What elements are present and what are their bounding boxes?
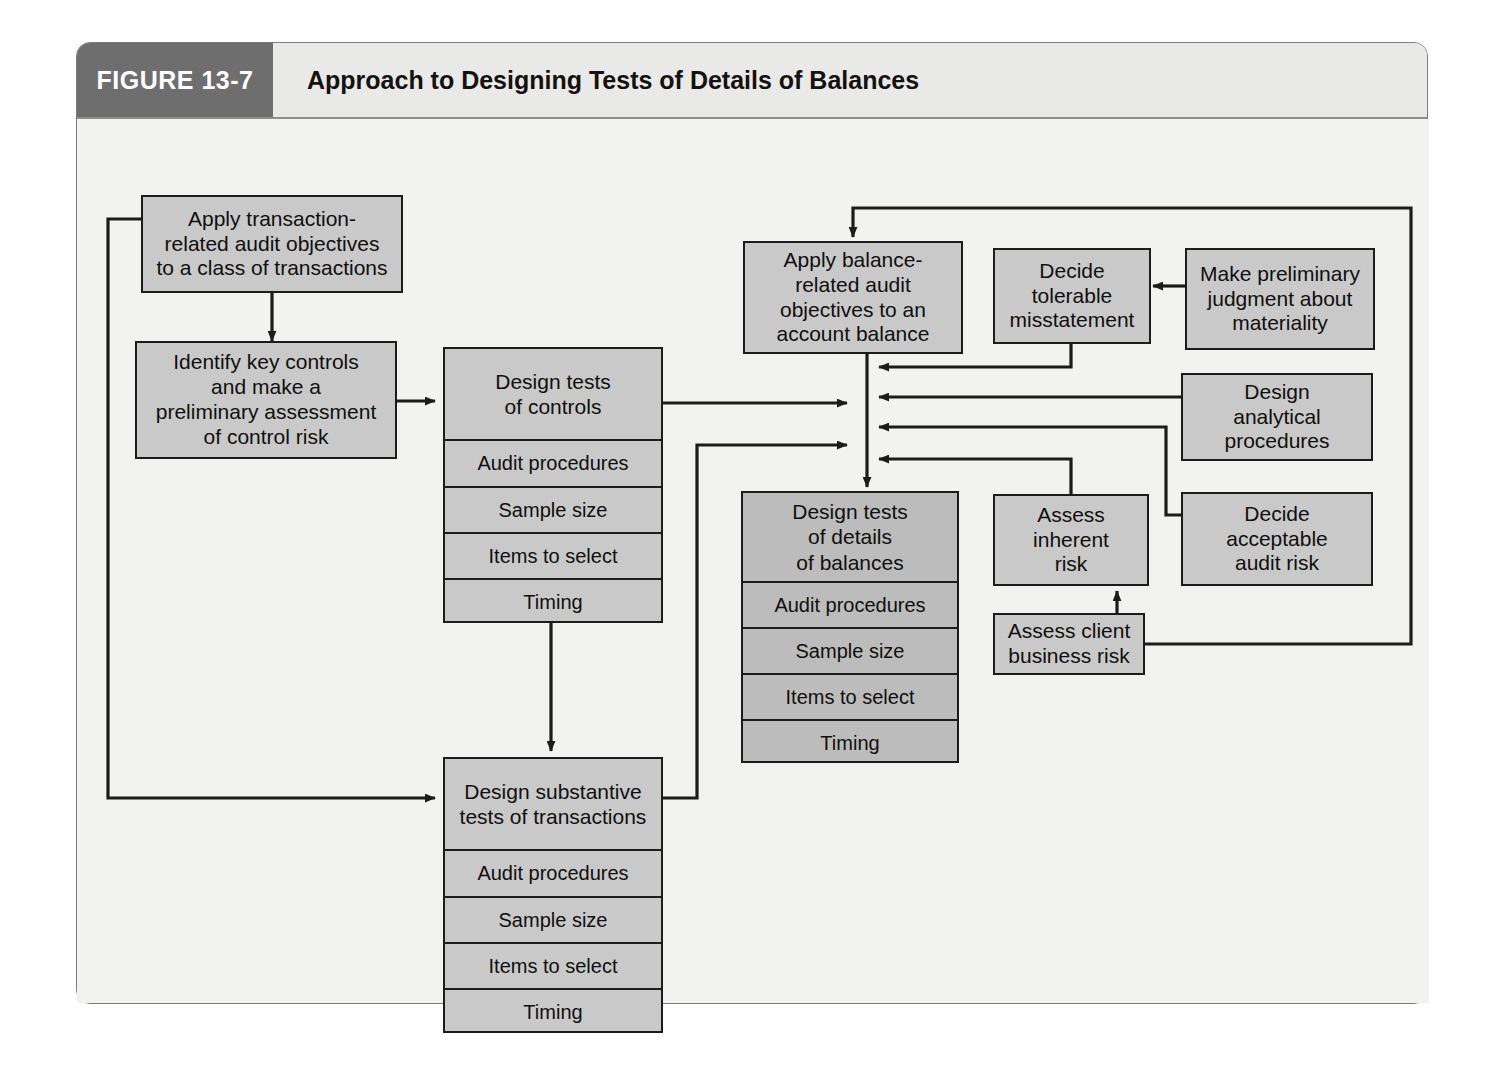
stack-row-label: Timing bbox=[523, 1001, 582, 1024]
stack-row-audit-procedures[interactable]: Audit procedures bbox=[743, 581, 957, 627]
node-label: Decideacceptableaudit risk bbox=[1226, 502, 1328, 576]
figure-title: Approach to Designing Tests of Details o… bbox=[307, 66, 919, 95]
stack-row-label: Timing bbox=[820, 732, 879, 755]
stack-row-items-to-select[interactable]: Items to select bbox=[445, 532, 661, 578]
figure-header: FIGURE 13-7 Approach to Designing Tests … bbox=[77, 43, 1427, 117]
node-label: Apply transaction-related audit objectiv… bbox=[156, 207, 387, 281]
stack-row-label: Items to select bbox=[786, 686, 915, 709]
stack-row-label: Sample size bbox=[499, 909, 608, 932]
node-label: Apply balance-related auditobjectives to… bbox=[777, 248, 930, 347]
stack-header: Design testsof detailsof balances bbox=[743, 493, 957, 581]
edge-inherent-to-junction bbox=[879, 459, 1071, 494]
stack-row-label: Items to select bbox=[489, 545, 618, 568]
stack-row-items-to-select[interactable]: Items to select bbox=[445, 942, 661, 988]
stack-row-label: Audit procedures bbox=[477, 862, 628, 885]
node-label: Decidetolerablemisstatement bbox=[1010, 259, 1135, 333]
figure-number-tab: FIGURE 13-7 bbox=[77, 43, 273, 117]
node-decide-tolerable-misstatement[interactable]: Decidetolerablemisstatement bbox=[993, 248, 1151, 344]
stack-row-sample-size[interactable]: Sample size bbox=[445, 896, 661, 942]
node-label: Make preliminaryjudgment aboutmaterialit… bbox=[1200, 262, 1360, 336]
edge-apply-to-substantive bbox=[108, 219, 435, 798]
stack-row-sample-size[interactable]: Sample size bbox=[445, 486, 661, 532]
stack-row-timing[interactable]: Timing bbox=[445, 578, 661, 625]
stack-row-label: Timing bbox=[523, 591, 582, 614]
node-apply-balance-objectives[interactable]: Apply balance-related auditobjectives to… bbox=[743, 241, 963, 354]
node-assess-client-business-risk[interactable]: Assess clientbusiness risk bbox=[993, 613, 1145, 675]
node-identify-key-controls[interactable]: Identify key controlsand make aprelimina… bbox=[135, 341, 397, 459]
figure-title-band: Approach to Designing Tests of Details o… bbox=[273, 43, 1427, 117]
node-make-preliminary-judgment-materiality[interactable]: Make preliminaryjudgment aboutmaterialit… bbox=[1185, 248, 1375, 350]
node-label: Assessinherentrisk bbox=[1033, 503, 1109, 577]
stack-design-tests-of-controls[interactable]: Design testsof controls Audit procedures… bbox=[443, 347, 663, 623]
stack-header-label: Design testsof detailsof balances bbox=[792, 499, 908, 575]
node-decide-acceptable-audit-risk[interactable]: Decideacceptableaudit risk bbox=[1181, 492, 1373, 586]
node-label: Designanalyticalprocedures bbox=[1224, 380, 1329, 454]
stack-header: Design testsof controls bbox=[445, 349, 661, 439]
stack-row-audit-procedures[interactable]: Audit procedures bbox=[445, 439, 661, 486]
diagram-canvas: Apply transaction-related audit objectiv… bbox=[77, 119, 1429, 1003]
stack-row-label: Sample size bbox=[499, 499, 608, 522]
stack-row-label: Audit procedures bbox=[774, 594, 925, 617]
stack-design-substantive-tests-of-transactions[interactable]: Design substantivetests of transactions … bbox=[443, 757, 663, 1033]
node-label: Identify key controlsand make aprelimina… bbox=[156, 350, 377, 449]
stack-row-sample-size[interactable]: Sample size bbox=[743, 627, 957, 673]
stack-header-label: Design substantivetests of transactions bbox=[460, 779, 647, 829]
stack-row-items-to-select[interactable]: Items to select bbox=[743, 673, 957, 719]
stack-row-timing[interactable]: Timing bbox=[743, 719, 957, 765]
stack-row-label: Sample size bbox=[796, 640, 905, 663]
stack-row-label: Items to select bbox=[489, 955, 618, 978]
stack-row-label: Audit procedures bbox=[477, 452, 628, 475]
node-assess-inherent-risk[interactable]: Assessinherentrisk bbox=[993, 494, 1149, 586]
stack-design-tests-of-details-of-balances[interactable]: Design testsof detailsof balances Audit … bbox=[741, 491, 959, 763]
stack-header-label: Design testsof controls bbox=[495, 369, 611, 419]
stack-row-timing[interactable]: Timing bbox=[445, 988, 661, 1035]
node-apply-transaction-objectives[interactable]: Apply transaction-related audit objectiv… bbox=[141, 195, 403, 293]
node-design-analytical-procedures[interactable]: Designanalyticalprocedures bbox=[1181, 373, 1373, 461]
node-label: Assess clientbusiness risk bbox=[1008, 619, 1131, 669]
stack-header: Design substantivetests of transactions bbox=[445, 759, 661, 849]
figure-number-label: FIGURE 13-7 bbox=[97, 66, 254, 95]
stack-row-audit-procedures[interactable]: Audit procedures bbox=[445, 849, 661, 896]
figure-frame: FIGURE 13-7 Approach to Designing Tests … bbox=[76, 42, 1428, 1004]
